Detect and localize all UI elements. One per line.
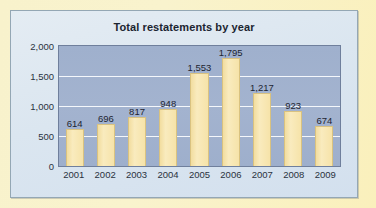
x-axis-tick-label: 2008 [278,169,309,180]
x-axis-tick-label: 2006 [215,169,246,180]
x-axis-tick-label: 2004 [152,169,183,180]
bar-slot: 614 [59,46,90,166]
x-axis-tick-label: 2007 [247,169,278,180]
x-axis-tick-label: 2001 [58,169,89,180]
bar-value-label: 1,553 [188,62,212,73]
y-axis-tick-label: 2,000 [30,41,54,52]
bar[interactable]: 1,553 [190,73,208,166]
bar-value-label: 674 [316,115,332,126]
x-axis-tick-label: 2005 [184,169,215,180]
bar-slot: 1,217 [246,46,277,166]
bar-slot: 817 [121,46,152,166]
bar-value-label: 1,795 [219,47,243,58]
bar-series: 6146968179481,5531,7951,217923674 [59,46,340,166]
bar-value-label: 1,217 [250,82,274,93]
bar-slot: 923 [278,46,309,166]
bar-value-label: 923 [285,100,301,111]
y-axis-tick-label: 1,000 [30,101,54,112]
bar-slot: 1,553 [184,46,215,166]
bar-slot: 1,795 [215,46,246,166]
bar-slot: 948 [153,46,184,166]
bar[interactable]: 817 [128,117,146,166]
x-axis-tick-label: 2003 [121,169,152,180]
bar[interactable]: 923 [284,111,302,166]
bar[interactable]: 1,217 [253,93,271,166]
bar-slot: 696 [90,46,121,166]
x-axis-ticks: 200120022003200420052006200720082009 [58,169,341,180]
y-axis-tick-label: 500 [38,131,54,142]
bar-value-label: 948 [160,98,176,109]
chart-card: Total restatements by year 05001,0001,50… [10,10,358,198]
bar[interactable]: 674 [315,126,333,166]
figure: Total restatements by year 05001,0001,50… [0,0,376,208]
bar[interactable]: 1,795 [222,58,240,166]
x-axis-tick-label: 2002 [89,169,120,180]
bar-value-label: 817 [129,106,145,117]
plot-area: 05001,0001,5002,000 6146968179481,5531,7… [58,45,341,167]
bar[interactable]: 948 [159,109,177,166]
bar-value-label: 696 [98,113,114,124]
bar[interactable]: 614 [66,129,84,166]
bar-slot: 674 [309,46,340,166]
y-axis-tick-label: 0 [49,161,54,172]
chart-title: Total restatements by year [11,21,357,33]
bar-value-label: 614 [67,118,83,129]
y-axis-tick-label: 1,500 [30,71,54,82]
bar[interactable]: 696 [97,124,115,166]
x-axis-tick-label: 2009 [310,169,341,180]
